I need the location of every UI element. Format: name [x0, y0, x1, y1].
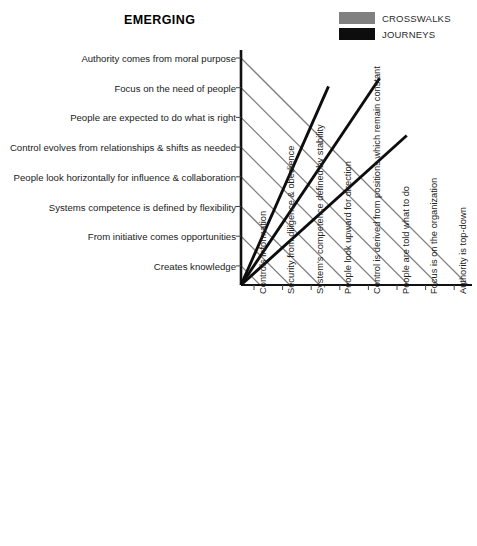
chart-figure: EMERGING CROSSWALKS JOURNEYS Authority c… — [0, 0, 477, 546]
x-axis-label: System's competence defined by stability — [315, 124, 325, 294]
x-axis-label: People are told what to do — [401, 186, 411, 294]
x-axis-label: Authority is top-down — [458, 207, 468, 294]
x-axis-label: Focus is on the organization — [429, 178, 439, 294]
x-axis-label: Security from diligence & obedience — [286, 146, 296, 294]
x-axis-labels: Controls informationSecurity from dilige… — [0, 0, 477, 546]
x-axis-label: Controls information — [258, 211, 268, 294]
x-axis-label: People look upward for direction — [343, 161, 353, 294]
x-axis-label: Control is derived from positions which … — [372, 66, 382, 294]
